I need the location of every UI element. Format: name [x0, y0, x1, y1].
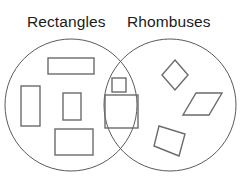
- rectangles-circle: [5, 39, 137, 171]
- intersection-shape-group: [105, 78, 138, 128]
- right-only-shape-group: [154, 60, 222, 156]
- slanted-rhombus-shape: [183, 93, 222, 115]
- rhombuses-circle: [104, 39, 236, 171]
- venn-diagram-canvas: [0, 0, 241, 183]
- tall-rectangle-shape: [21, 86, 40, 126]
- small-square-shape: [112, 78, 126, 92]
- wide-rectangle-shape: [48, 58, 94, 74]
- diamond-rhombus-shape: [162, 60, 188, 90]
- venn-diagram: Rectangles Rhombuses: [0, 0, 241, 183]
- bottom-rectangle-shape: [55, 129, 93, 155]
- tilted-square-rhombus-shape: [154, 126, 185, 156]
- small-upright-rectangle-shape: [63, 93, 81, 120]
- large-square-shape: [105, 95, 138, 128]
- left-only-shape-group: [21, 58, 94, 155]
